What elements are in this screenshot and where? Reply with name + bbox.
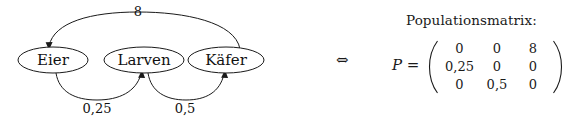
matrix-expression: 0 0 8 0,25 0 0 0 0,5 0 <box>428 40 563 94</box>
matrix-cell-r2c2: 0 <box>479 58 515 76</box>
graph-node-eier[interactable]: Eier <box>18 47 88 73</box>
matrix-cell-r2c3: 0 <box>515 58 551 76</box>
edge-eier-to-larven <box>56 70 145 100</box>
matrix-label: P = <box>392 56 419 74</box>
matrix-cell-r3c3: 0 <box>515 76 551 94</box>
node-label-larven: Larven <box>117 51 170 69</box>
edge-larven-to-kaefer <box>148 70 228 100</box>
matrix-right-paren <box>552 40 563 94</box>
graph-node-kaefer[interactable]: Käfer <box>188 47 264 73</box>
graph-node-larven[interactable]: Larven <box>104 47 184 73</box>
matrix-row: 0 0,5 0 <box>440 76 551 94</box>
matrix-cell-r3c1: 0 <box>440 76 479 94</box>
matrix-grid: 0 0 8 0,25 0 0 0 0,5 0 <box>440 40 551 94</box>
matrix-row: 0,25 0 0 <box>440 58 551 76</box>
matrix-title: Populationsmatrix: <box>406 12 537 28</box>
matrix-cell-r2c1: 0,25 <box>440 58 479 76</box>
matrix-cell-r3c2: 0,5 <box>479 76 515 94</box>
equivalence-symbol: ⇔ <box>336 50 349 70</box>
matrix-row: 0 0 8 <box>440 40 551 58</box>
edge-label-larven-to-kaefer: 0,5 <box>175 101 196 116</box>
edge-kaefer-to-eier <box>46 12 240 50</box>
edge-path-eier-to-larven <box>56 73 141 100</box>
node-label-eier: Eier <box>37 51 70 69</box>
population-matrix-panel: Populationsmatrix: ⇔ P = 0 0 8 0,25 <box>300 0 546 120</box>
edge-path-larven-to-kaefer <box>148 73 224 100</box>
node-label-kaefer: Käfer <box>205 51 248 69</box>
edge-path-kaefer-to-eier <box>49 12 240 49</box>
matrix-left-paren <box>428 40 439 94</box>
edge-label-kaefer-to-eier: 8 <box>134 4 142 19</box>
matrix-cell-r1c2: 0 <box>479 40 515 58</box>
matrix-cell-r1c1: 0 <box>440 40 479 58</box>
edge-label-eier-to-larven: 0,25 <box>83 101 112 116</box>
matrix-cell-r1c3: 8 <box>515 40 551 58</box>
life-cycle-graph: Eier Larven Käfer 8 0,25 0,5 <box>0 0 300 120</box>
